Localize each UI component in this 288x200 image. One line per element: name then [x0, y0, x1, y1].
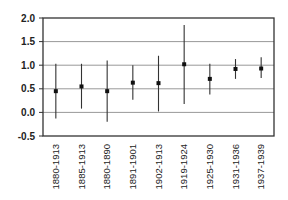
- error-bars: [54, 25, 263, 122]
- error-bar-chart: -0.50.00.51.01.52.0 1880-19131885-191318…: [0, 0, 288, 200]
- data-point: [259, 57, 263, 78]
- y-tick-label: 1.0: [21, 60, 35, 71]
- point-marker: [259, 67, 263, 71]
- point-marker: [105, 89, 109, 93]
- x-category-label: 1902-1913: [153, 144, 164, 189]
- point-marker: [234, 67, 238, 71]
- point-marker: [54, 89, 58, 93]
- x-category-label: 1931-1936: [230, 144, 241, 189]
- point-marker: [182, 62, 186, 66]
- data-point: [131, 65, 135, 99]
- x-category-label: 1919-1924: [178, 144, 189, 189]
- data-point: [234, 59, 238, 79]
- x-category-label: 1891-1901: [127, 144, 138, 189]
- point-marker: [131, 81, 135, 85]
- x-category-label: 1880-1913: [50, 144, 61, 189]
- y-tick-label: 2.0: [21, 13, 35, 24]
- point-marker: [80, 84, 84, 88]
- y-tick-label: 0.0: [21, 107, 35, 118]
- y-tick-label: 1.5: [21, 36, 35, 47]
- data-point: [182, 25, 186, 104]
- x-category-label: 1937-1939: [255, 144, 266, 189]
- x-category-label: 1885-1913: [76, 144, 87, 189]
- data-point: [54, 64, 58, 119]
- point-marker: [208, 77, 212, 81]
- y-axis: -0.50.00.51.01.52.0: [18, 13, 43, 142]
- x-axis-labels: 1880-19131885-19131880-18901891-19011902…: [50, 144, 266, 189]
- y-tick-label: -0.5: [18, 131, 36, 142]
- data-point: [157, 56, 161, 112]
- data-point: [80, 64, 84, 109]
- x-category-label: 1925-1930: [204, 144, 215, 189]
- data-point: [208, 64, 212, 95]
- y-tick-label: 0.5: [21, 83, 35, 94]
- point-marker: [157, 81, 161, 85]
- x-category-label: 1880-1890: [101, 144, 112, 189]
